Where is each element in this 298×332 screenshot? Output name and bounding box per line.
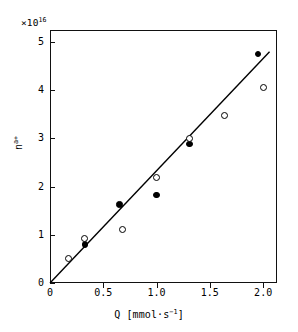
- data-point-open-circles: [260, 84, 267, 91]
- fit-line: [50, 52, 270, 283]
- x-tick-label-1.0: 1.0: [140, 287, 174, 298]
- y-tick-label-5: 5: [22, 36, 44, 47]
- x-tick-label-2.0: 2.0: [246, 287, 280, 298]
- y-tick-3: [50, 138, 55, 139]
- data-layer: [0, 0, 298, 332]
- data-point-open-circles: [81, 235, 88, 242]
- y-tick-5: [50, 42, 55, 43]
- data-point-filled-circles: [116, 201, 123, 208]
- data-point-filled-circles: [153, 192, 160, 199]
- y-tick-label-3: 3: [22, 132, 44, 143]
- data-point-filled-circles: [82, 241, 89, 248]
- data-point-open-circles: [119, 226, 126, 233]
- data-point-open-circles: [65, 255, 72, 262]
- data-point-open-circles: [186, 135, 193, 142]
- y-tick-label-2: 2: [22, 181, 44, 192]
- y-tick-label-4: 4: [22, 84, 44, 95]
- scatter-plot-figure: ×1016 Q [mmol·s−1] na+ 01234500.51.01.52…: [0, 0, 298, 332]
- x-tick-label-0.5: 0.5: [86, 287, 120, 298]
- y-tick-1: [50, 235, 55, 236]
- x-tick-label-1.5: 1.5: [193, 287, 227, 298]
- y-tick-4: [50, 90, 55, 91]
- x-tick-label-0: 0: [33, 287, 67, 298]
- y-tick-label-1: 1: [22, 229, 44, 240]
- y-tick-2: [50, 187, 55, 188]
- y-tick-0: [50, 283, 55, 284]
